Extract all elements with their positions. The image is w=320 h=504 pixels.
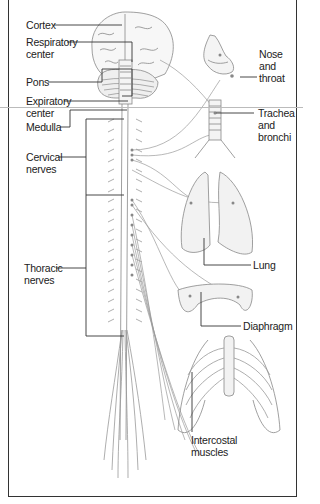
label-line: nerves (24, 274, 63, 286)
label-line: nerves (26, 163, 62, 175)
label-diaphragm: Diaphragm (243, 320, 293, 332)
label-line: Respiratory (26, 36, 77, 48)
label-nose-throat: Nose and throat (259, 48, 285, 84)
label-thoracic-nerves: Thoracic nerves (24, 262, 63, 286)
label-line: Thoracic (24, 262, 63, 274)
lungs-drawing (181, 172, 252, 254)
label-cortex: Cortex (26, 19, 56, 31)
label-line: and (259, 60, 285, 72)
label-expiratory-center: Expiratory center (26, 95, 71, 119)
thoracic-nerves-bracket (56, 195, 124, 336)
label-lung: Lung (253, 259, 276, 271)
label-line: Nose (259, 48, 285, 60)
label-line: Trachea (258, 107, 295, 119)
label-line: center (26, 48, 77, 60)
label-intercostal-muscles: Intercostal muscles (191, 434, 237, 458)
label-pons: Pons (26, 76, 49, 88)
label-medulla: Medulla (26, 121, 61, 133)
label-respiratory-center: Respiratory center (26, 36, 77, 60)
label-line: throat (259, 72, 285, 84)
label-line: and (258, 119, 295, 131)
label-line: Cervical (26, 151, 62, 163)
diaphragm-drawing (178, 284, 252, 312)
ribcage-drawing (178, 336, 280, 433)
brain-drawing (92, 12, 173, 104)
label-line: bronchi (258, 131, 295, 143)
label-line: center (26, 107, 71, 119)
label-line: muscles (191, 446, 237, 458)
label-cervical-nerves: Cervical nerves (26, 151, 62, 175)
label-trachea-bronchi: Trachea and bronchi (258, 107, 295, 143)
label-line: Intercostal (191, 434, 237, 446)
label-line: Expiratory (26, 95, 71, 107)
cervical-nerves-bracket (58, 119, 124, 195)
